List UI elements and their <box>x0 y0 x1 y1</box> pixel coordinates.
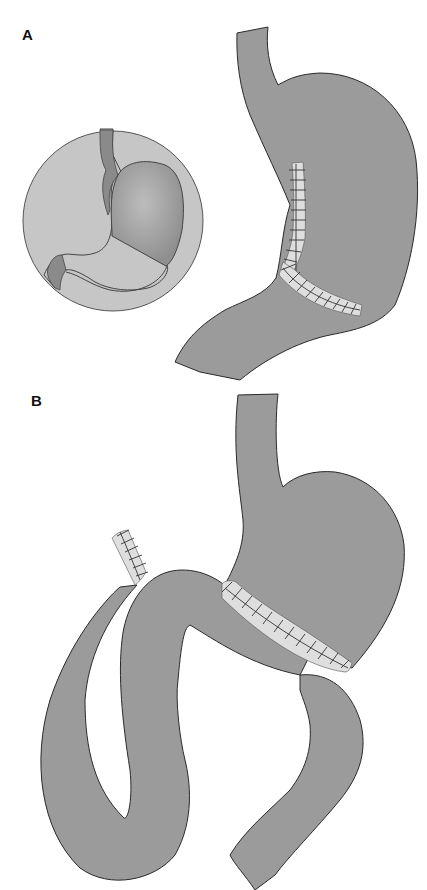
inset-circle <box>23 129 203 311</box>
panel-a <box>23 27 418 380</box>
efferent-limb <box>230 675 363 890</box>
stomach-a <box>175 27 418 380</box>
illustration <box>0 0 427 890</box>
stapled-blind-end <box>112 530 146 585</box>
panel-b <box>41 394 404 890</box>
